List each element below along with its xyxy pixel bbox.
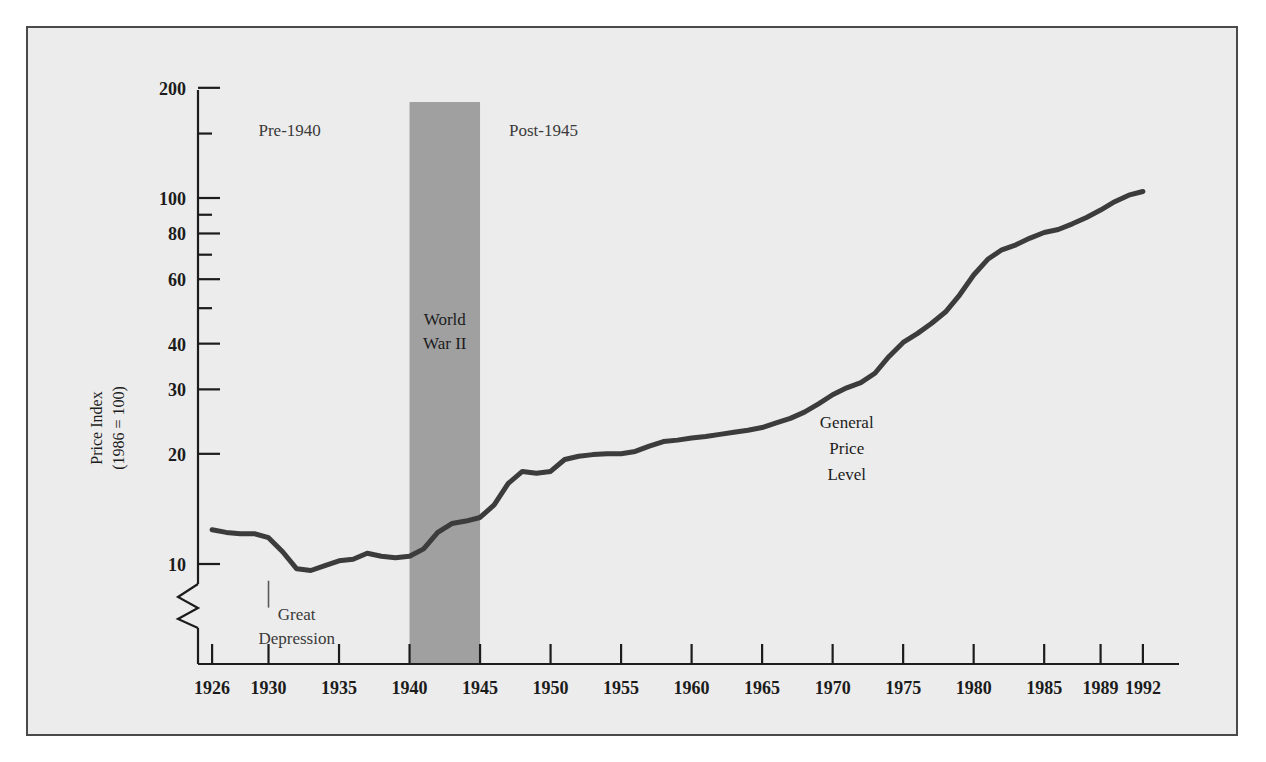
y-tick-label: 200 <box>159 79 186 99</box>
x-tick-label: 1960 <box>674 678 710 698</box>
x-tick-label: 1950 <box>533 678 569 698</box>
figure-root: 102030406080100200 192619301935194019451… <box>0 0 1266 762</box>
annotation-general-price-level-line1: General <box>820 413 874 432</box>
x-tick-label: 1992 <box>1125 678 1161 698</box>
x-tick-label: 1965 <box>744 678 780 698</box>
x-tick-label: 1980 <box>956 678 992 698</box>
x-tick-label: 1945 <box>462 678 498 698</box>
annotation-great-depression-line2: Depression <box>258 629 335 648</box>
y-tick-label: 40 <box>168 335 186 355</box>
annotation-great-depression-line1: Great <box>278 605 316 624</box>
y-axis-ticks: 102030406080100200 <box>159 79 220 575</box>
x-tick-label: 1935 <box>321 678 357 698</box>
y-axis-title-group: Price Index(1986 = 100) <box>88 386 128 470</box>
shaded-region-world-war-ii <box>410 102 481 664</box>
x-tick-label: 1940 <box>392 678 428 698</box>
annotation-pre-1940: Pre-1940 <box>259 121 321 140</box>
x-tick-label: 1955 <box>603 678 639 698</box>
y-tick-label: 80 <box>168 224 186 244</box>
y-tick-label: 60 <box>168 270 186 290</box>
y-tick-label: 100 <box>159 189 186 209</box>
x-axis-ticks: 1926193019351940194519501955196019651970… <box>194 644 1161 698</box>
axis-layer <box>178 90 1179 664</box>
shaded-region-layer <box>410 102 481 664</box>
y-tick-label: 10 <box>168 555 186 575</box>
annotation-general-price-level-line2: Price <box>829 439 864 458</box>
x-tick-label: 1926 <box>194 678 230 698</box>
axis-break-zigzag-icon <box>178 584 198 628</box>
y-tick-label: 20 <box>168 445 186 465</box>
x-tick-label: 1970 <box>815 678 851 698</box>
annotation-world-war-ii-line2: War II <box>423 334 467 353</box>
annotation-post-1945: Post-1945 <box>509 121 578 140</box>
price-index-line-chart: 102030406080100200 192619301935194019451… <box>28 28 1236 734</box>
annotation-world-war-ii-line1: World <box>424 310 467 329</box>
x-tick-label: 1930 <box>251 678 287 698</box>
y-tick-label: 30 <box>168 380 186 400</box>
y-axis-title-line1: Price Index <box>88 391 105 464</box>
y-axis-title-line2: (1986 = 100) <box>110 386 128 470</box>
x-tick-label: 1985 <box>1026 678 1062 698</box>
chart-frame: 102030406080100200 192619301935194019451… <box>26 26 1238 736</box>
data-series-layer <box>212 191 1143 570</box>
series-line-general-price-level <box>212 191 1143 570</box>
annotation-general-price-level-line3: Level <box>827 465 866 484</box>
annotation-layer: Pre-1940Post-1945WorldWar IIGreatDepress… <box>258 121 873 649</box>
y-axis-title: Price Index(1986 = 100) <box>88 386 128 470</box>
x-tick-label: 1975 <box>885 678 921 698</box>
x-tick-label: 1989 <box>1083 678 1119 698</box>
